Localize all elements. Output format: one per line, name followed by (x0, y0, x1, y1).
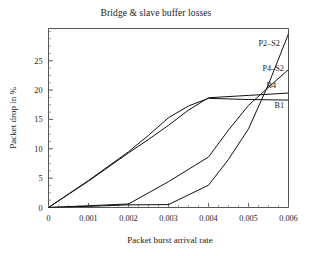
chart-figure: Bridge & slave buffer losses 00.0010.002… (0, 0, 312, 256)
x-tick-label: 0.004 (199, 214, 217, 223)
series-label: B4 (267, 81, 277, 90)
series-line-b1 (49, 98, 289, 207)
x-tick-label: 0.006 (279, 214, 297, 223)
data-series-group (49, 34, 289, 208)
y-tick-label: 15 (34, 115, 42, 124)
x-axis-label: Packet burst arrival rate (127, 235, 213, 245)
x-axis-tick-labels: 00.0010.0020.0030.0040.0050.006 (46, 214, 297, 223)
y-tick-label: 20 (34, 86, 42, 95)
y-tick-label: 25 (34, 57, 42, 66)
y-tick-label: 5 (38, 174, 42, 183)
x-tick-label: 0.003 (159, 214, 177, 223)
series-label: P4–S2 (263, 64, 284, 73)
plot-canvas: 00.0010.0020.0030.0040.0050.006 05101520… (0, 0, 312, 256)
x-tick-label: 0 (46, 214, 50, 223)
series-label: B1 (275, 101, 285, 110)
x-tick-label: 0.001 (79, 214, 97, 223)
series-line-b4 (49, 93, 289, 207)
y-tick-label: 0 (38, 204, 42, 213)
y-axis-tick-labels: 0510152025 (34, 57, 42, 213)
y-tick-label: 10 (34, 145, 42, 154)
x-tick-label: 0.002 (119, 214, 137, 223)
series-label: P2–S2 (259, 39, 280, 48)
series-line-p4-s2 (49, 70, 289, 208)
y-axis-label: Packet drop in % (8, 87, 18, 149)
x-tick-label: 0.005 (239, 214, 257, 223)
